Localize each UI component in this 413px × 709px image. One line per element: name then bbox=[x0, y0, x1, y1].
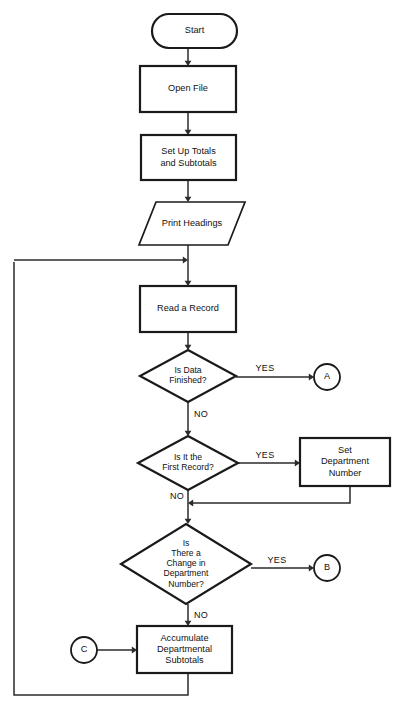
branch-label-no-change-dept: NO bbox=[194, 610, 208, 620]
edge-set-dept-merge-back bbox=[188, 486, 350, 506]
edge-first-record-yes-to-set-dept bbox=[238, 460, 300, 467]
connector-a[interactable]: A bbox=[314, 364, 340, 390]
edge-first-record-no-down bbox=[185, 490, 192, 524]
label-set-department-number: Set bbox=[338, 445, 352, 455]
label-is-it-first-record: First Record? bbox=[162, 462, 214, 472]
edge-read-record-to-decision bbox=[185, 332, 192, 350]
label-print-headings: Print Headings bbox=[162, 218, 223, 228]
connector-b-label: B bbox=[324, 562, 330, 572]
branch-label-yes-change-dept: YES bbox=[268, 555, 287, 565]
label-is-data-finished: Is Data bbox=[174, 365, 201, 375]
edge-set-dept-merge-back-arrowhead bbox=[188, 500, 193, 507]
node-open-file[interactable]: Open File bbox=[140, 66, 236, 112]
flowchart-canvas: StartOpen FileSet Up Totalsand Subtotals… bbox=[0, 0, 413, 709]
connector-a-label: A bbox=[324, 371, 331, 381]
edge-open-file-to-set-up-totals bbox=[185, 112, 192, 135]
edge-c-to-accumulate bbox=[97, 647, 137, 654]
node-is-there-a-change[interactable]: IsThere aChange inDepartmentNumber? bbox=[121, 524, 251, 604]
edge-loop-return-into-main-arrowhead bbox=[183, 257, 188, 264]
nodes-layer: StartOpen FileSet Up Totalsand Subtotals… bbox=[121, 14, 390, 673]
node-start[interactable]: Start bbox=[152, 14, 237, 48]
label-is-there-a-change: There a bbox=[171, 548, 201, 558]
branch-label-yes-data-finished: YES bbox=[256, 363, 275, 373]
label-accumulate-subtotals: Subtotals bbox=[165, 655, 204, 665]
branch-label-no-first-record: NO bbox=[170, 491, 184, 501]
branch-label-yes-first-record: YES bbox=[256, 450, 275, 460]
node-read-a-record[interactable]: Read a Record bbox=[140, 286, 236, 332]
edge-change-dept-no-down bbox=[185, 604, 192, 626]
label-accumulate-subtotals: Accumulate bbox=[160, 633, 208, 643]
label-is-there-a-change: Number? bbox=[168, 579, 204, 589]
label-open-file: Open File bbox=[168, 83, 208, 93]
edge-start-to-open-file bbox=[185, 48, 192, 66]
label-is-data-finished: Finished? bbox=[169, 375, 206, 385]
edge-data-finished-no-down bbox=[185, 402, 192, 436]
branch-label-no-data-finished: NO bbox=[194, 409, 208, 419]
label-accumulate-subtotals: Departmental bbox=[157, 644, 212, 654]
edge-print-headings-to-junction bbox=[185, 245, 192, 286]
node-accumulate-subtotals[interactable]: AccumulateDepartmentalSubtotals bbox=[137, 626, 232, 673]
node-is-data-finished[interactable]: Is DataFinished? bbox=[140, 350, 236, 402]
label-read-a-record: Read a Record bbox=[157, 303, 219, 313]
connector-c-label: C bbox=[81, 644, 88, 654]
label-start: Start bbox=[185, 25, 205, 35]
label-set-up-totals: and Subtotals bbox=[160, 158, 217, 168]
node-is-it-first-record[interactable]: Is It theFirst Record? bbox=[138, 436, 238, 490]
label-is-it-first-record: Is It the bbox=[174, 452, 202, 462]
edge-data-finished-yes-to-a bbox=[236, 374, 314, 381]
node-set-department-number[interactable]: SetDepartmentNumber bbox=[300, 438, 390, 486]
connector-b[interactable]: B bbox=[314, 555, 340, 581]
label-set-department-number: Department bbox=[321, 456, 369, 466]
label-is-there-a-change: Department bbox=[164, 568, 210, 578]
flowchart-svg: StartOpen FileSet Up Totalsand Subtotals… bbox=[0, 0, 413, 709]
node-print-headings[interactable]: Print Headings bbox=[139, 202, 245, 245]
edge-set-dept-merge-back-line bbox=[191, 486, 350, 503]
label-set-department-number: Number bbox=[329, 468, 362, 478]
edge-loop-return-into-main bbox=[14, 257, 188, 264]
node-set-up-totals[interactable]: Set Up Totalsand Subtotals bbox=[141, 135, 236, 180]
label-set-up-totals: Set Up Totals bbox=[161, 146, 216, 156]
label-is-there-a-change: Change in bbox=[166, 558, 205, 568]
edge-change-dept-yes-to-b bbox=[251, 565, 314, 572]
connector-c[interactable]: C bbox=[71, 637, 97, 663]
edge-set-up-totals-to-print-headings bbox=[185, 180, 192, 202]
label-is-there-a-change: Is bbox=[183, 538, 190, 548]
